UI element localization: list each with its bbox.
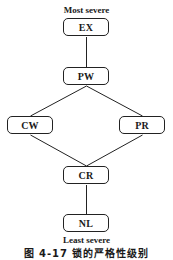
node-cw: CW bbox=[7, 116, 53, 134]
edge-pw-cw bbox=[31, 86, 87, 116]
node-pw: PW bbox=[63, 67, 109, 85]
node-pr: PR bbox=[119, 116, 165, 134]
node-cr: CR bbox=[63, 166, 109, 184]
edge-pw-pr bbox=[87, 86, 143, 116]
edge-cw-cr bbox=[31, 135, 87, 166]
edge-pr-cr bbox=[87, 135, 143, 166]
node-ex: EX bbox=[63, 18, 109, 36]
node-nl: NL bbox=[63, 214, 109, 232]
least-severe-label: Least severe bbox=[0, 235, 173, 245]
figure-caption: 图 4-17 锁的严格性级别 bbox=[0, 245, 173, 260]
